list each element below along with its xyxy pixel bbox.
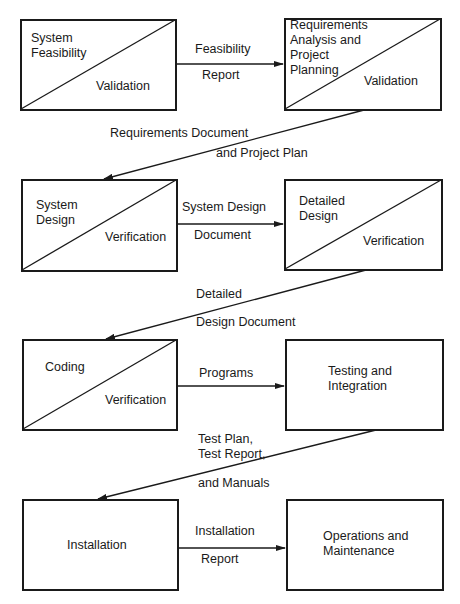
flow-label: Design Document [196,315,295,330]
phase-label: Coding [45,360,85,375]
phase-label: RequirementsAnalysis andProjectPlanning [290,18,368,78]
phase-box-detailed-design [284,179,443,271]
phase-label: SystemFeasibility [31,31,87,61]
flow-label: Report [202,68,240,83]
flow-label: Requirements Document [110,126,248,141]
phase-box-coding [22,339,178,431]
flow-label: System Design [182,200,266,215]
flow-label: Report [201,552,239,567]
phase-label: Testing andIntegration [328,364,392,394]
flow-label: Feasibility [195,42,251,57]
check-label: Verification [363,234,424,249]
check-label: Verification [105,230,166,245]
flow-label: Document [194,228,251,243]
phase-label: Installation [67,538,127,553]
flow-label: Programs [199,366,253,381]
flow-label: Test Plan,Test Report, [198,432,265,462]
flow-label: Installation [195,524,255,539]
check-label: Validation [364,74,418,89]
phase-label: DetailedDesign [299,194,345,224]
check-label: Validation [96,79,150,94]
phase-label: SystemDesign [36,198,78,228]
phase-label: Operations andMaintenance [323,529,408,559]
flow-label: and Manuals [198,476,270,491]
flow-label: and Project Plan [216,146,308,161]
flow-label: Detailed [196,287,242,302]
check-label: Verification [105,393,166,408]
